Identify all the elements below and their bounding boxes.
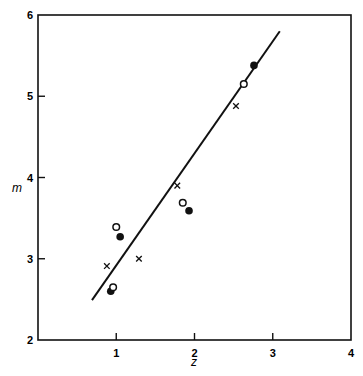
cross-marker — [233, 103, 239, 109]
open-circle-marker — [113, 224, 120, 231]
x-tick-label: 4 — [348, 347, 355, 359]
y-tick-label: 5 — [27, 90, 33, 102]
regression-line — [92, 31, 280, 300]
cross-marker — [104, 263, 110, 269]
open-circle-marker — [240, 81, 247, 88]
y-axis-label: m — [12, 181, 22, 195]
open-circle-marker — [110, 284, 117, 291]
y-tick-label: 4 — [27, 172, 34, 184]
axis-ticks — [38, 96, 273, 340]
filled-circle-marker — [250, 62, 258, 70]
x-tick-label: 3 — [270, 347, 276, 359]
axis-tick-labels: 123423456 — [27, 9, 355, 359]
cross-marker — [174, 183, 180, 189]
cross-marker — [136, 256, 142, 262]
y-tick-label: 2 — [27, 334, 33, 346]
scatter-chart: 123423456 z m — [0, 0, 363, 376]
filled-circle-marker — [116, 233, 124, 241]
filled-circle-marker — [185, 207, 193, 215]
x-tick-label: 1 — [113, 347, 119, 359]
y-tick-label: 6 — [27, 9, 33, 21]
open-circle-marker — [179, 199, 186, 206]
x-axis-label: z — [190, 355, 197, 369]
plot-frame — [38, 15, 351, 340]
y-tick-label: 3 — [27, 253, 33, 265]
